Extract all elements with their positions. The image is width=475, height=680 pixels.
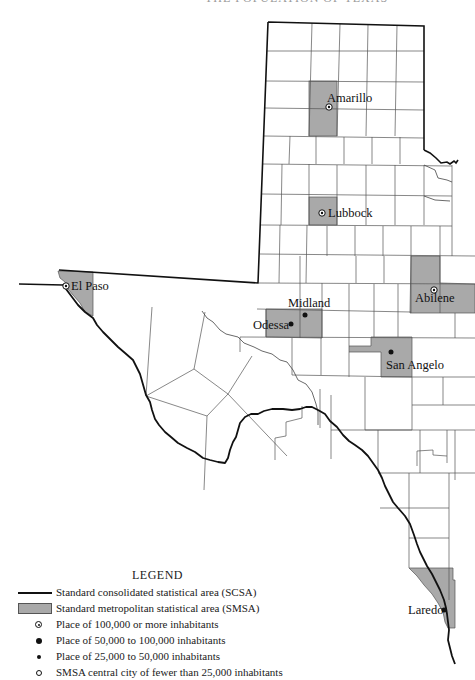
label-laredo: Laredo <box>408 603 443 618</box>
label-el-paso: El Paso <box>71 279 109 294</box>
gray-box-icon <box>0 602 52 616</box>
odessa-marker <box>289 322 294 327</box>
legend-title: LEGEND <box>132 568 183 583</box>
label-lubbock: Lubbock <box>328 206 372 221</box>
legend-item-50k: Place of 50,000 to 100,000 inhabitants <box>0 634 320 648</box>
lubbock-marker <box>319 210 325 216</box>
legend-item-central-city: SMSA central city of fewer than 25,000 i… <box>0 666 320 680</box>
thick-line-icon <box>0 586 52 600</box>
large-dot-icon <box>0 634 52 648</box>
legend-item-scsa: Standard consolidated statistical area (… <box>0 586 320 600</box>
el-paso-marker <box>63 283 69 289</box>
san-angelo-marker <box>389 350 394 355</box>
label-san-angelo: San Angelo <box>386 358 444 373</box>
label-odessa: Odessa <box>253 318 289 333</box>
open-circle-icon <box>0 666 52 680</box>
small-dot-icon <box>0 650 52 664</box>
midland-marker <box>303 313 308 318</box>
red-river <box>424 150 458 164</box>
ne-stream-2 <box>424 196 450 201</box>
label-midland: Midland <box>288 296 330 311</box>
smsa-areas <box>58 81 475 628</box>
ne-stream-1 <box>424 165 452 182</box>
state-border-panhandle <box>59 22 424 283</box>
ring-dot-icon <box>0 618 52 632</box>
nm-border-line <box>19 284 63 285</box>
label-abilene: Abilene <box>415 291 455 306</box>
legend-item-25k: Place of 25,000 to 50,000 inhabitants <box>0 650 320 664</box>
legend-item-smsa: Standard metropolitan statistical area (… <box>0 602 320 616</box>
label-amarillo: Amarillo <box>327 91 372 106</box>
legend-item-100k: Place of 100,000 or more inhabitants <box>0 618 320 632</box>
south-counties <box>146 307 475 600</box>
